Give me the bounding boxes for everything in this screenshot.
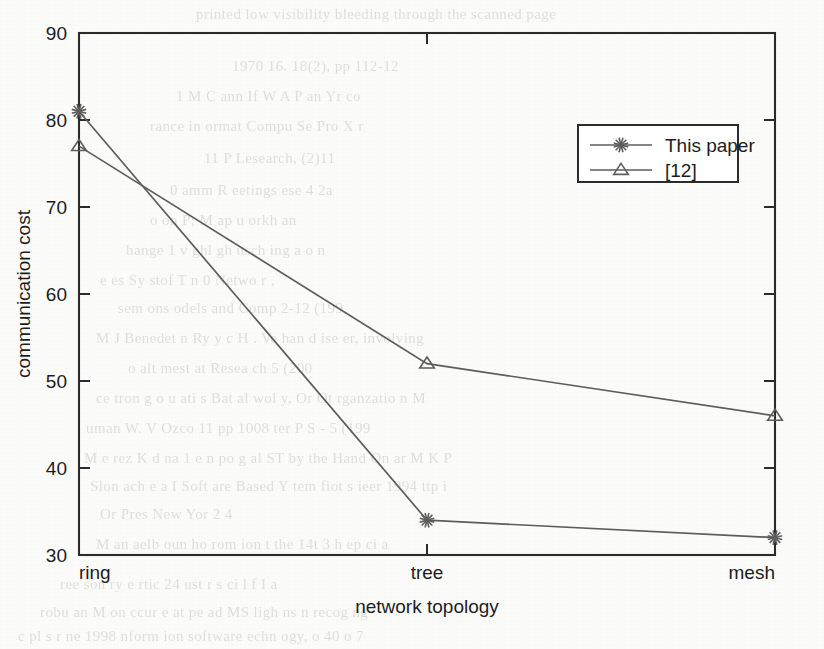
y-tick-label: 30 [46,545,67,566]
x-axis: ringtreemesh [79,33,775,583]
y-axis-title: communication cost [13,209,34,378]
y-tick-label: 60 [46,284,67,305]
x-tick-label: mesh [729,562,775,583]
chart-figure: 30405060708090 ringtreemesh network topo… [0,0,824,649]
x-axis-title: network topology [355,596,499,617]
x-tick-label: ring [79,562,111,583]
y-tick-label: 90 [46,23,67,44]
x-tick-label: tree [411,562,444,583]
y-tick-label: 80 [46,110,67,131]
chart-legend: This paper[12] [578,125,755,182]
triangle-marker [420,357,435,368]
y-axis: 30405060708090 [46,23,775,566]
plot-frame [79,33,775,555]
y-tick-label: 70 [46,197,67,218]
y-tick-label: 40 [46,458,67,479]
legend-label: [12] [665,160,697,181]
series-line [79,146,775,416]
y-tick-label: 50 [46,371,67,392]
legend-label: This paper [665,135,755,156]
